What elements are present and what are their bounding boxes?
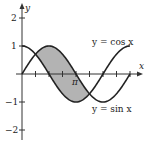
y-axis-label: y [24,3,31,13]
y-tick-label-neg2: −2 [5,125,18,135]
x-axis-arrow-icon [137,72,143,77]
y-axis-arrow-icon [20,3,25,9]
y-tick-label-neg1: −1 [5,97,18,107]
axes [16,6,140,140]
cos-curve-label: y = cos x [91,37,133,47]
pi-label: π [71,77,79,87]
y-tick-label-2: 2 [11,13,17,23]
sin-curve-label: y = sin x [91,104,132,114]
y-tick-label-1: 1 [11,41,17,51]
x-axis-label: x [139,61,144,71]
sin-cos-diagram: y x 2 1 −1 −2 π y = cos x y = sin x [0,0,147,144]
